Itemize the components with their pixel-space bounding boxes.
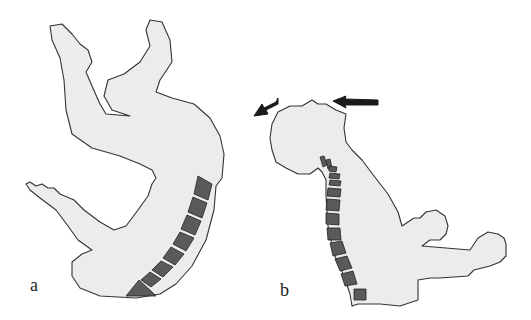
vertebra bbox=[326, 199, 340, 211]
vertebra bbox=[329, 173, 340, 179]
panel-label-b: b bbox=[280, 280, 289, 301]
vertebra bbox=[327, 228, 341, 240]
vertebra bbox=[329, 166, 337, 172]
panel-a-body-outline bbox=[26, 20, 224, 298]
vertebra bbox=[326, 213, 339, 225]
panel-b-body-outline bbox=[270, 100, 506, 306]
panel-a-figure bbox=[26, 20, 224, 298]
vertebra bbox=[329, 180, 341, 186]
panel-label-a: a bbox=[30, 275, 38, 296]
vertebra bbox=[354, 289, 366, 300]
vertebra bbox=[327, 188, 341, 197]
curved-arrow-icon bbox=[254, 98, 278, 116]
panel-b-figure bbox=[270, 100, 506, 306]
figure-canvas bbox=[0, 0, 531, 320]
straight-arrow-left-icon bbox=[333, 96, 378, 108]
